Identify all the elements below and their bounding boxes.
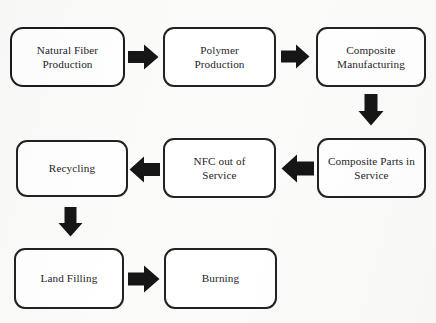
arrow-right-icon (281, 44, 310, 69)
arrow-composite-manufacturing-to-parts-in-service (358, 94, 384, 126)
node-recycling[interactable]: Recycling (16, 140, 128, 197)
node-natural-fiber-production[interactable]: Natural Fiber Production (10, 27, 125, 87)
node-polymer-production[interactable]: Polymer Production (163, 27, 276, 87)
node-burning[interactable]: Burning (164, 248, 277, 309)
arrow-left-icon (129, 156, 160, 183)
node-nfc-out-of-service[interactable]: NFC out of Service (163, 138, 276, 198)
flowchart-diagram: Natural Fiber Production Polymer Product… (0, 0, 436, 323)
arrow-down-icon (58, 207, 83, 237)
arrow-natural-fiber-to-polymer (128, 44, 159, 70)
arrow-parts-in-service-to-nfc-out-of-service (281, 154, 314, 183)
node-land-filling[interactable]: Land Filling (14, 248, 124, 309)
arrow-left-icon (281, 154, 314, 183)
node-composite-manufacturing[interactable]: Composite Manufacturing (316, 27, 426, 87)
arrow-nfc-out-of-service-to-recycling (129, 156, 160, 183)
arrow-land-filling-to-burning (128, 265, 160, 293)
arrow-recycling-to-land-filling (58, 207, 83, 237)
arrow-right-icon (128, 265, 160, 293)
arrow-down-icon (358, 94, 384, 126)
arrow-right-icon (128, 44, 159, 70)
arrow-polymer-to-composite-manufacturing (281, 44, 310, 69)
node-composite-parts-in-service[interactable]: Composite Parts in Service (317, 138, 426, 198)
